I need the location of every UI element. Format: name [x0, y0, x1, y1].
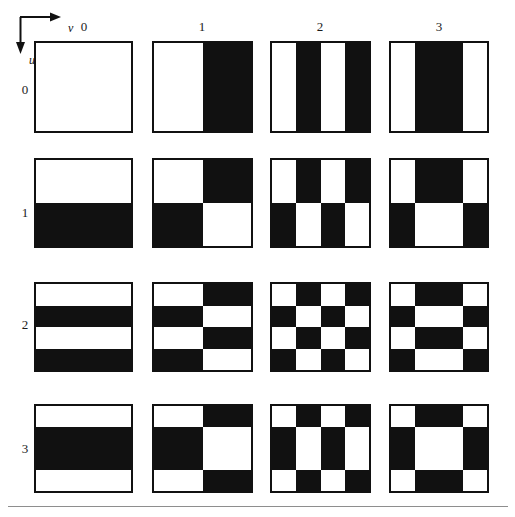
cell-r2-c0-white: [391, 327, 415, 349]
cell-r0-c2-white: [321, 160, 345, 203]
tile-cells: [391, 160, 487, 246]
basis-tile-u0-v3: [389, 41, 489, 133]
cell-r3-c1-white: [203, 349, 252, 371]
cell-r1-c0-black: [391, 427, 415, 470]
cell-r3-c2-black: [321, 349, 345, 371]
walsh-basis-figure: v u 0123 0123: [0, 0, 515, 517]
cell-r0-c0-white: [36, 406, 131, 427]
basis-tile-u1-v3: [389, 158, 489, 248]
cell-r1-c3-white: [345, 203, 369, 246]
basis-tile-u1-v2: [270, 158, 371, 248]
cell-r0-c2-white: [463, 43, 487, 131]
column-label-0: 0: [69, 20, 99, 33]
cell-r0-c1-black: [415, 284, 463, 306]
cell-r0-c0-white: [36, 284, 131, 306]
cell-r0-c2-white: [321, 406, 345, 427]
row-label-1: 1: [15, 206, 35, 219]
cell-r0-c0-white: [36, 43, 131, 131]
cell-r2-c1-black: [203, 470, 252, 491]
cell-r1-c0-black: [154, 306, 203, 328]
tile-cells: [391, 284, 487, 370]
basis-tile-u3-v0: [34, 404, 133, 493]
cell-r1-c1-white: [415, 203, 463, 246]
cell-r0-c3-black: [345, 284, 369, 306]
cell-r0-c1-black: [415, 160, 463, 203]
cell-r1-c1-white: [415, 427, 463, 470]
cell-r0-c0-white: [154, 406, 203, 427]
cell-r1-c2-black: [463, 427, 487, 470]
basis-tile-u3-v3: [389, 404, 489, 493]
cell-r0-c0-white: [391, 406, 415, 427]
basis-tile-u0-v2: [270, 41, 371, 133]
row-label-0: 0: [15, 83, 35, 96]
cell-r0-c0-white: [36, 160, 131, 203]
basis-tile-u0-v1: [152, 41, 253, 133]
basis-tile-u1-v1: [152, 158, 253, 248]
cell-r0-c2-white: [321, 43, 345, 131]
column-label-2: 2: [305, 20, 335, 33]
tile-cells: [391, 406, 487, 491]
tile-cells: [36, 406, 131, 491]
cell-r1-c2-black: [463, 203, 487, 246]
cell-r0-c1-black: [203, 284, 252, 306]
cell-r0-c0-white: [272, 43, 296, 131]
cell-r1-c0-black: [36, 203, 131, 246]
cell-r2-c0-white: [272, 327, 296, 349]
cell-r3-c0-black: [391, 349, 415, 371]
cell-r0-c3-black: [345, 43, 369, 131]
cell-r1-c3-white: [345, 427, 369, 470]
cell-r3-c0-black: [272, 349, 296, 371]
cell-r1-c0-black: [272, 306, 296, 328]
cell-r2-c1-black: [415, 327, 463, 349]
cell-r1-c1-white: [203, 306, 252, 328]
cell-r1-c0-black: [154, 427, 203, 470]
cell-r0-c0-white: [272, 284, 296, 306]
cell-r0-c1-black: [415, 43, 463, 131]
cell-r2-c3-black: [345, 470, 369, 491]
tile-cells: [272, 284, 369, 370]
tile-cells: [154, 160, 251, 246]
basis-tile-u0-v0: [34, 41, 133, 133]
cell-r1-c1-white: [203, 427, 252, 470]
cell-r2-c0-white: [272, 470, 296, 491]
cell-r1-c0-black: [36, 306, 131, 328]
cell-r3-c1-white: [296, 349, 320, 371]
cell-r1-c0-black: [36, 427, 131, 470]
cell-r1-c1-white: [296, 427, 320, 470]
cell-r2-c0-white: [154, 470, 203, 491]
basis-tile-u2-v3: [389, 282, 489, 372]
cell-r2-c1-black: [415, 470, 463, 491]
basis-tile-u2-v1: [152, 282, 253, 372]
cell-r1-c2-black: [321, 427, 345, 470]
cell-r0-c0-white: [154, 43, 203, 131]
cell-r0-c1-black: [296, 43, 320, 131]
basis-tile-u2-v2: [270, 282, 371, 372]
cell-r2-c0-white: [154, 327, 203, 349]
cell-r0-c0-white: [154, 284, 203, 306]
column-label-1: 1: [187, 20, 217, 33]
cell-r0-c2-white: [321, 284, 345, 306]
basis-tile-u3-v2: [270, 404, 371, 493]
cell-r2-c0-white: [36, 327, 131, 349]
cell-r2-c1-black: [296, 327, 320, 349]
bottom-divider: [8, 506, 508, 507]
cell-r1-c0-black: [154, 203, 203, 246]
cell-r2-c2-white: [321, 327, 345, 349]
cell-r0-c2-white: [463, 284, 487, 306]
cell-r1-c1-white: [203, 203, 252, 246]
column-label-3: 3: [424, 20, 454, 33]
cell-r2-c2-white: [463, 470, 487, 491]
basis-tile-u2-v0: [34, 282, 133, 372]
cell-r0-c1-black: [203, 406, 252, 427]
tile-cells: [36, 284, 131, 370]
cell-r0-c3-black: [345, 406, 369, 427]
cell-r1-c2-black: [463, 306, 487, 328]
cell-r2-c3-black: [345, 327, 369, 349]
tile-cells: [154, 406, 251, 491]
cell-r3-c2-black: [463, 349, 487, 371]
cell-r1-c2-black: [321, 203, 345, 246]
cell-r1-c1-white: [296, 203, 320, 246]
cell-r0-c1-black: [203, 43, 252, 131]
tile-cells: [154, 43, 251, 131]
cell-r0-c0-white: [272, 160, 296, 203]
